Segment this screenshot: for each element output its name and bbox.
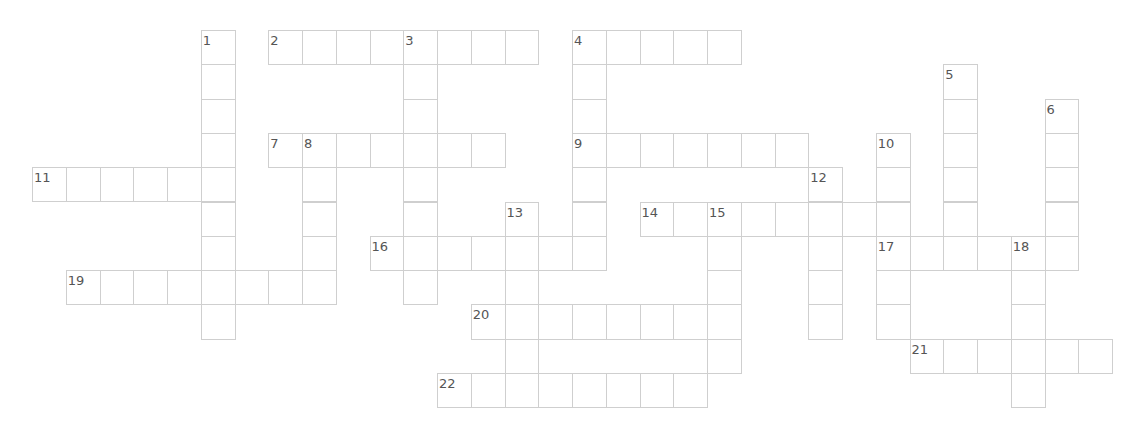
crossword-cell[interactable] bbox=[1011, 304, 1046, 339]
crossword-cell[interactable]: 8 bbox=[302, 133, 337, 168]
crossword-cell[interactable]: 13 bbox=[505, 202, 540, 237]
crossword-cell[interactable] bbox=[471, 373, 506, 408]
crossword-cell[interactable] bbox=[977, 236, 1012, 271]
crossword-cell[interactable]: 21 bbox=[910, 339, 945, 374]
crossword-cell[interactable] bbox=[201, 236, 236, 271]
crossword-cell[interactable] bbox=[505, 339, 540, 374]
crossword-cell[interactable]: 12 bbox=[808, 167, 843, 202]
crossword-cell[interactable] bbox=[741, 133, 776, 168]
crossword-cell[interactable] bbox=[403, 133, 438, 168]
crossword-cell[interactable] bbox=[943, 133, 978, 168]
crossword-cell[interactable] bbox=[370, 133, 405, 168]
crossword-cell[interactable] bbox=[505, 304, 540, 339]
crossword-cell[interactable]: 19 bbox=[66, 270, 101, 305]
crossword-cell[interactable] bbox=[606, 30, 641, 65]
crossword-cell[interactable]: 17 bbox=[876, 236, 911, 271]
crossword-cell[interactable]: 16 bbox=[370, 236, 405, 271]
crossword-cell[interactable] bbox=[66, 167, 101, 202]
crossword-cell[interactable] bbox=[572, 304, 607, 339]
crossword-cell[interactable] bbox=[133, 270, 168, 305]
crossword-cell[interactable] bbox=[977, 339, 1012, 374]
crossword-cell[interactable] bbox=[471, 236, 506, 271]
crossword-cell[interactable] bbox=[707, 270, 742, 305]
crossword-cell[interactable] bbox=[1011, 339, 1046, 374]
crossword-cell[interactable] bbox=[167, 270, 202, 305]
crossword-cell[interactable] bbox=[538, 236, 573, 271]
crossword-cell[interactable] bbox=[1011, 270, 1046, 305]
crossword-cell[interactable] bbox=[1045, 133, 1080, 168]
crossword-cell[interactable] bbox=[673, 133, 708, 168]
crossword-cell[interactable] bbox=[876, 202, 911, 237]
crossword-cell[interactable] bbox=[505, 270, 540, 305]
crossword-cell[interactable] bbox=[201, 64, 236, 99]
crossword-cell[interactable] bbox=[943, 339, 978, 374]
crossword-cell[interactable] bbox=[437, 30, 472, 65]
crossword-cell[interactable] bbox=[268, 270, 303, 305]
crossword-cell[interactable] bbox=[201, 304, 236, 339]
crossword-cell[interactable] bbox=[707, 30, 742, 65]
crossword-cell[interactable] bbox=[808, 202, 843, 237]
crossword-cell[interactable] bbox=[201, 270, 236, 305]
crossword-cell[interactable] bbox=[572, 236, 607, 271]
crossword-cell[interactable] bbox=[775, 133, 810, 168]
crossword-cell[interactable] bbox=[707, 236, 742, 271]
crossword-cell[interactable] bbox=[1011, 373, 1046, 408]
crossword-cell[interactable] bbox=[808, 304, 843, 339]
crossword-cell[interactable]: 22 bbox=[437, 373, 472, 408]
crossword-cell[interactable] bbox=[471, 30, 506, 65]
crossword-cell[interactable] bbox=[235, 270, 270, 305]
crossword-cell[interactable] bbox=[842, 202, 877, 237]
crossword-cell[interactable] bbox=[673, 373, 708, 408]
crossword-cell[interactable] bbox=[302, 30, 337, 65]
crossword-cell[interactable] bbox=[201, 99, 236, 134]
crossword-cell[interactable] bbox=[876, 270, 911, 305]
crossword-cell[interactable] bbox=[640, 133, 675, 168]
crossword-cell[interactable] bbox=[707, 304, 742, 339]
crossword-cell[interactable]: 18 bbox=[1011, 236, 1046, 271]
crossword-cell[interactable] bbox=[673, 304, 708, 339]
crossword-cell[interactable] bbox=[167, 167, 202, 202]
crossword-cell[interactable] bbox=[1045, 202, 1080, 237]
crossword-cell[interactable] bbox=[302, 202, 337, 237]
crossword-cell[interactable] bbox=[403, 99, 438, 134]
crossword-cell[interactable]: 6 bbox=[1045, 99, 1080, 134]
crossword-cell[interactable] bbox=[606, 304, 641, 339]
crossword-cell[interactable] bbox=[1045, 236, 1080, 271]
crossword-cell[interactable] bbox=[910, 236, 945, 271]
crossword-cell[interactable] bbox=[572, 167, 607, 202]
crossword-cell[interactable] bbox=[370, 30, 405, 65]
crossword-cell[interactable] bbox=[302, 167, 337, 202]
crossword-cell[interactable] bbox=[943, 236, 978, 271]
crossword-cell[interactable] bbox=[673, 30, 708, 65]
crossword-cell[interactable] bbox=[943, 202, 978, 237]
crossword-cell[interactable] bbox=[403, 167, 438, 202]
crossword-cell[interactable] bbox=[572, 99, 607, 134]
crossword-cell[interactable] bbox=[201, 133, 236, 168]
crossword-cell[interactable] bbox=[100, 270, 135, 305]
crossword-cell[interactable]: 1 bbox=[201, 30, 236, 65]
crossword-cell[interactable] bbox=[943, 167, 978, 202]
crossword-cell[interactable] bbox=[336, 133, 371, 168]
crossword-cell[interactable] bbox=[606, 133, 641, 168]
crossword-cell[interactable]: 5 bbox=[943, 64, 978, 99]
crossword-cell[interactable] bbox=[336, 30, 371, 65]
crossword-cell[interactable] bbox=[640, 304, 675, 339]
crossword-cell[interactable] bbox=[741, 202, 776, 237]
crossword-cell[interactable]: 2 bbox=[268, 30, 303, 65]
crossword-cell[interactable] bbox=[403, 202, 438, 237]
crossword-cell[interactable] bbox=[640, 30, 675, 65]
crossword-cell[interactable] bbox=[808, 270, 843, 305]
crossword-cell[interactable] bbox=[471, 133, 506, 168]
crossword-cell[interactable] bbox=[775, 202, 810, 237]
crossword-cell[interactable] bbox=[505, 30, 540, 65]
crossword-cell[interactable] bbox=[505, 373, 540, 408]
crossword-cell[interactable] bbox=[403, 64, 438, 99]
crossword-cell[interactable]: 14 bbox=[640, 202, 675, 237]
crossword-cell[interactable]: 10 bbox=[876, 133, 911, 168]
crossword-cell[interactable]: 15 bbox=[707, 202, 742, 237]
crossword-cell[interactable] bbox=[201, 167, 236, 202]
crossword-cell[interactable] bbox=[606, 373, 641, 408]
crossword-cell[interactable] bbox=[572, 64, 607, 99]
crossword-cell[interactable] bbox=[707, 339, 742, 374]
crossword-cell[interactable] bbox=[640, 373, 675, 408]
